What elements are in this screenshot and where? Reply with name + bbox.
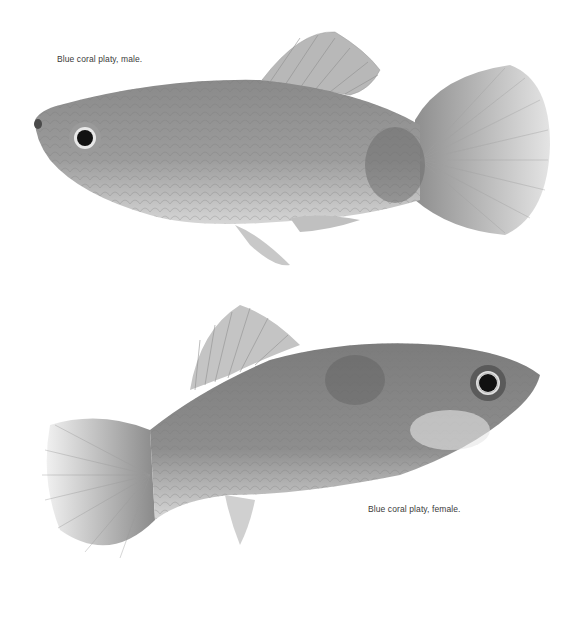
female-platy-photo (0, 290, 575, 590)
male-platy-photo (0, 20, 575, 280)
caption-female: Blue coral platy, female. (368, 504, 461, 514)
